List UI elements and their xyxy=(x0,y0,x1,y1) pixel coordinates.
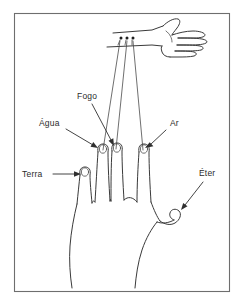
label-agua: Água xyxy=(39,118,60,128)
annotation-ar: Ar xyxy=(145,118,179,148)
arrow-ar xyxy=(145,130,166,148)
label-fogo: Fogo xyxy=(77,91,97,101)
arrow-terra xyxy=(53,171,81,176)
main-hand xyxy=(70,143,181,288)
wrist-markers xyxy=(120,37,135,40)
annotation-fogo: Fogo xyxy=(77,91,114,146)
arrow-agua xyxy=(66,129,98,148)
arrow-fogo xyxy=(92,104,114,146)
connector-lines xyxy=(103,41,143,150)
label-eter: Éter xyxy=(199,168,215,178)
arrow-eter xyxy=(181,182,203,210)
label-terra: Terra xyxy=(22,169,42,179)
five-elements-hand-diagram: Terra Água Fogo Ar xyxy=(0,0,242,302)
annotation-agua: Água xyxy=(39,118,98,148)
diagram-root: Terra Água Fogo Ar xyxy=(0,0,242,302)
annotation-eter: Éter xyxy=(181,168,215,210)
label-ar: Ar xyxy=(170,118,179,128)
annotation-terra: Terra xyxy=(22,169,81,179)
